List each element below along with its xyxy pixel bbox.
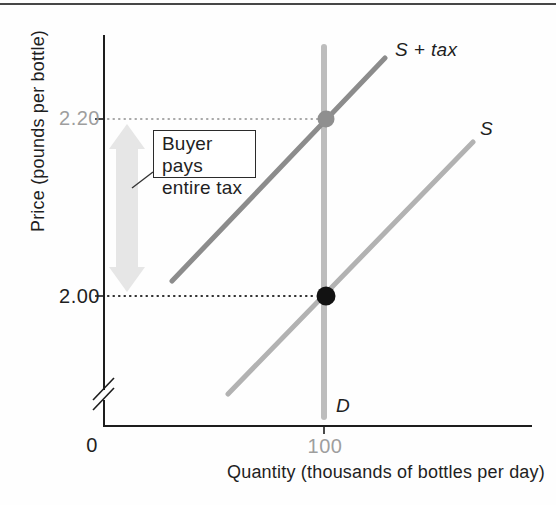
- supply-curve: [228, 142, 473, 394]
- callout-line-2: entire tax: [162, 177, 255, 199]
- supply-curve-label: S: [480, 118, 493, 140]
- tax-interval-arrow: [109, 124, 145, 292]
- y-axis-title: Price (pounds per bottle): [28, 30, 49, 232]
- buyer-pays-callout-box: Buyer pays entire tax: [153, 130, 256, 178]
- y-tick-label-220: 2.20: [30, 107, 100, 130]
- post-tax-point: [318, 111, 335, 128]
- callout-line-1: Buyer pays: [162, 133, 255, 177]
- x-tick-label-100: 100: [292, 435, 358, 458]
- x-axis-title: Quantity (thousands of bottles per day): [227, 462, 537, 483]
- chart-canvas: [0, 0, 556, 505]
- demand-curve-label: D: [336, 395, 350, 417]
- y-tick-label-200: 2.00: [30, 285, 100, 308]
- equilibrium-point: [317, 287, 336, 306]
- tax-incidence-figure: Price (pounds per bottle) 2.20 2.00 0 10…: [0, 0, 556, 505]
- origin-label: 0: [81, 434, 103, 457]
- s-plus-tax-curve-label: S + tax: [395, 39, 457, 61]
